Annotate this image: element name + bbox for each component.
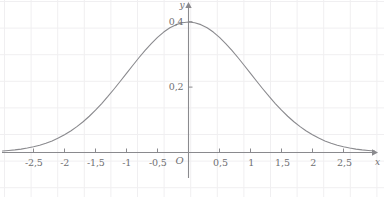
x-axis-tick-label: -0,5 [149,158,167,168]
grid-lines [0,0,384,197]
x-axis-name-label: x [375,158,380,167]
chart-canvas [0,0,384,197]
normal-distribution-chart: -2,5-2-1,5-1-0,50,511,522,50,20,4Oxy [0,0,384,197]
x-axis-tick-label: -2,5 [25,158,43,168]
x-axis-tick-label: -1,5 [87,158,105,168]
x-axis-tick-label: 2,5 [337,158,352,168]
x-axis-tick-label: 1 [248,158,254,168]
x-axis-tick-label: 0,5 [213,158,228,168]
y-axis-tick-label: 0,4 [169,17,184,27]
x-axis-tick-label: 1,5 [275,158,290,168]
x-axis-tick-label: -1 [122,158,131,168]
y-axis-tick-label: 0,2 [169,82,184,92]
y-axis-name-label: y [180,1,185,10]
x-axis-tick-label: 2 [310,158,316,168]
x-axis-tick-label: -2 [60,158,69,168]
origin-label: O [176,156,184,166]
